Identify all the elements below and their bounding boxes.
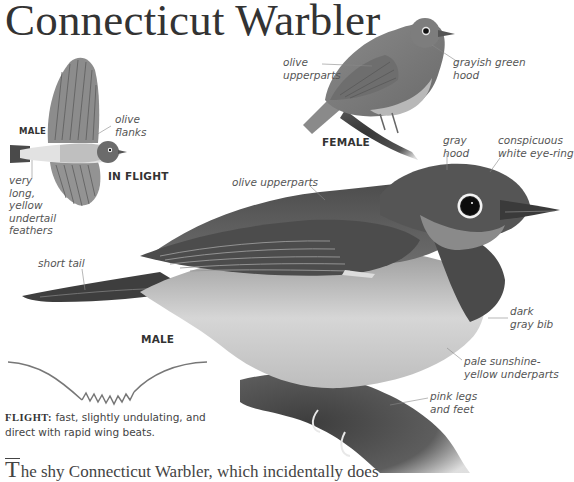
body-paragraph: The shy Connecticut Warbler, which incid… (5, 458, 379, 482)
body-paragraph-text: he shy Connecticut Warbler, which incide… (21, 462, 379, 481)
label-dark-gray-bib: dark gray bib (510, 305, 553, 330)
label-undertail-feathers: very long, yellow undertail feathers (9, 174, 56, 237)
drop-cap: T (5, 458, 20, 478)
label-pink-legs: pink legs and feet (430, 390, 477, 415)
label-yellow-underparts: pale sunshine- yellow underparts (464, 355, 559, 380)
label-short-tail: short tail (38, 257, 85, 270)
label-female-olive-upperparts: olive upperparts (283, 56, 341, 81)
in-flight-caption: IN FLIGHT (108, 170, 169, 182)
flight-heading: FLIGHT: (5, 412, 52, 423)
flight-description: FLIGHT: fast, slightly undulating, and d… (5, 410, 235, 440)
label-male-olive-upperparts: olive upperparts (232, 176, 318, 189)
male-caption: MALE (141, 333, 174, 345)
label-gray-hood: gray hood (443, 134, 469, 159)
female-caption: FEMALE (322, 136, 370, 148)
flight-bird-sex-label: MALE (19, 126, 46, 136)
label-olive-flanks: olive flanks (115, 113, 146, 138)
label-grayish-green-hood: grayish green hood (453, 56, 526, 81)
flight-pattern-diagram (8, 362, 207, 404)
label-white-eye-ring: conspicuous white eye-ring (498, 134, 574, 159)
